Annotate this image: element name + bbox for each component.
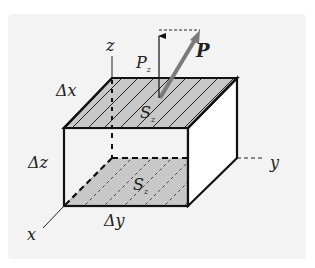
box-diagram: z x y Δx Δz Δy P Pz Sz Sz: [0, 0, 315, 268]
label-delta-x: Δx: [55, 81, 77, 100]
label-z: z: [105, 36, 115, 55]
x-axis: [43, 206, 64, 228]
label-x: x: [27, 225, 36, 244]
label-delta-z: Δz: [27, 153, 49, 172]
label-y: y: [269, 153, 280, 172]
label-p: P: [195, 40, 210, 61]
label-delta-y: Δy: [103, 211, 126, 230]
label-pz: Pz: [135, 53, 152, 74]
